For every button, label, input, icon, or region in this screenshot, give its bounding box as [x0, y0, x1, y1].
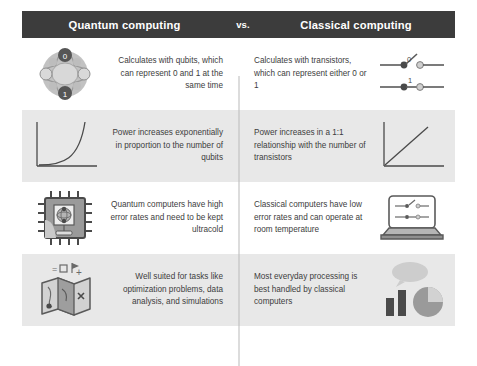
- row-text-classical: Classical computers have low error rates…: [239, 182, 369, 254]
- row-text-quantum: Well suited for tasks like optimization …: [108, 254, 239, 326]
- row-text-classical: Calculates with transistors, which can r…: [239, 38, 369, 110]
- row-text-quantum: Power increases exponentially in proport…: [108, 110, 239, 182]
- laptop-icon: [369, 182, 455, 254]
- comparison-header-bar: Quantum computing vs. Classical computin…: [22, 11, 455, 38]
- comparison-rows: 0 1 Calculates with qubits, which can re…: [22, 38, 455, 326]
- header-title-quantum: Quantum computing: [22, 19, 231, 31]
- quantum-chip-icon: [22, 182, 108, 254]
- svg-text:=: =: [52, 264, 57, 274]
- row-text-classical-label: Calculates with transistors, which can r…: [254, 55, 369, 92]
- transistor-switches-icon: 0 1: [369, 38, 455, 110]
- header-title-classical: Classical computing: [255, 19, 455, 31]
- linear-growth-graph-icon: [369, 110, 455, 182]
- svg-text:+: +: [76, 267, 82, 278]
- row-text-quantum: Calculates with qubits, which can repres…: [108, 38, 239, 110]
- svg-text:0: 0: [63, 52, 68, 61]
- header-versus-label: vs.: [231, 19, 255, 30]
- row-text-quantum: Quantum computers have high error rates …: [108, 182, 239, 254]
- center-divider: [238, 76, 239, 366]
- bar-and-pie-chart-icon: [369, 254, 455, 326]
- row-text-classical-label: Classical computers have low error rates…: [254, 199, 369, 236]
- row-text-classical: Power increases in a 1:1 relationship wi…: [239, 110, 369, 182]
- exponential-growth-graph-icon: [22, 110, 108, 182]
- row-text-quantum-label: Power increases exponentially in proport…: [108, 127, 223, 164]
- folded-treasure-map-icon: = +: [22, 254, 108, 326]
- row-text-quantum-label: Quantum computers have high error rates …: [108, 199, 223, 236]
- row-text-classical-label: Most everyday processing is best handled…: [254, 271, 369, 308]
- row-text-quantum-label: Well suited for tasks like optimization …: [108, 271, 223, 308]
- svg-text:0: 0: [407, 55, 411, 64]
- svg-text:1: 1: [63, 90, 68, 99]
- qubit-bloch-sphere-icon: 0 1: [22, 38, 108, 110]
- svg-text:1: 1: [408, 76, 412, 85]
- row-text-quantum-label: Calculates with qubits, which can repres…: [108, 55, 223, 92]
- row-text-classical-label: Power increases in a 1:1 relationship wi…: [254, 127, 369, 164]
- row-text-classical: Most everyday processing is best handled…: [239, 254, 369, 326]
